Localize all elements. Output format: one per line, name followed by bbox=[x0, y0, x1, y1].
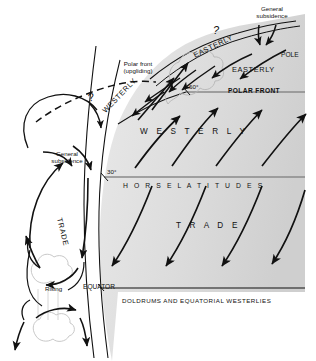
latitude-30-label: 30° bbox=[107, 169, 116, 176]
general-subsidence-subtropical-label-line2: subsidence bbox=[41, 158, 93, 165]
equatorial-rising-arrows bbox=[15, 236, 87, 350]
diagram-canvas bbox=[0, 0, 316, 361]
question-mark-top: ? bbox=[213, 25, 219, 37]
westerly-band-label: W E S T E R L Y bbox=[140, 128, 248, 137]
circulation-diagram: General subsidence ? ? POLE EASTERLY EAS… bbox=[0, 0, 316, 361]
polar-front-line-label: POLAR FRONT bbox=[228, 88, 280, 95]
general-subsidence-polar-label-line2: subsidence bbox=[243, 13, 301, 20]
easterly-horizontal-label: EASTERLY bbox=[232, 66, 275, 74]
doldrums-label: DOLDRUMS AND EQUATORIAL WESTERLIES bbox=[122, 298, 271, 305]
rising-label: Rising bbox=[45, 286, 62, 293]
equatorial-clouds bbox=[31, 254, 74, 341]
horse-latitudes-label: H O R S E L A T I T U D E S bbox=[123, 182, 264, 189]
polar-front-upgliding-label-line2: (upgliding) bbox=[109, 68, 167, 75]
equator-label: EQUATOR bbox=[83, 284, 115, 291]
pole-label: POLE bbox=[281, 52, 299, 59]
latitude-60-label: 60° bbox=[189, 84, 198, 91]
trade-band-label: T R A D E bbox=[176, 222, 241, 231]
